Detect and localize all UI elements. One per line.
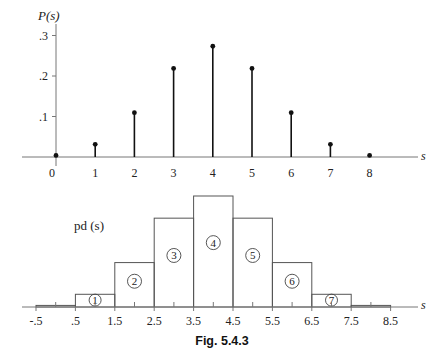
top-x-tick-label: 6 (288, 166, 294, 180)
bottom-x-tick-label: 5.5 (265, 314, 280, 328)
stem-point (250, 66, 255, 71)
top-x-tick-label: 3 (171, 166, 177, 180)
bottom-x-tick-label: 8.5 (383, 314, 398, 328)
bottom-y-axis-label: pd (s) (74, 218, 104, 233)
stem-point (210, 44, 215, 49)
top-x-tick-label: 2 (131, 166, 137, 180)
bar-number-label: 3 (171, 249, 177, 261)
stem-point (328, 142, 333, 147)
top-y-tick-label: .3 (39, 29, 48, 43)
top-x-tick-label: 8 (367, 166, 373, 180)
stem-point (93, 142, 98, 147)
top-x-tick-label: 0 (49, 166, 55, 180)
histogram-plot: pd (s) 1234567 s -.5.51.52.53.54.55.56.5… (22, 196, 426, 328)
bottom-x-tick-label: 6.5 (304, 314, 319, 328)
stem-point (289, 110, 294, 115)
bottom-x-axis-label: s (421, 298, 426, 312)
bottom-x-tick-label: -.5 (30, 314, 43, 328)
top-x-tick-label: 5 (249, 166, 255, 180)
bottom-x-tick-label: .5 (71, 314, 80, 328)
bottom-x-tick-label: 4.5 (226, 314, 241, 328)
bar-number-label: 6 (289, 275, 295, 287)
top-x-axis-label: s (421, 149, 426, 163)
stem-point (54, 153, 59, 158)
bottom-x-tick-label: 1.5 (107, 314, 122, 328)
bottom-y-axis-label-text: pd (s) (74, 218, 104, 233)
top-y-tick-label: .2 (39, 69, 48, 83)
top-x-tick-label: 1 (92, 166, 98, 180)
bar-number-label: 2 (132, 275, 138, 287)
top-y-axis-label: P(s) (37, 8, 60, 23)
bottom-x-tick-label: 7.5 (344, 314, 359, 328)
figure: P(s) s .1.2.3 012345678 pd (s) 1234567 s… (0, 0, 443, 358)
stem-point (367, 153, 372, 158)
stem-point (171, 66, 176, 71)
stem-plot: P(s) s .1.2.3 012345678 (22, 8, 426, 180)
bar-number-label: 4 (211, 237, 217, 249)
histogram-bar (194, 196, 233, 307)
top-x-tick-label: 4 (210, 166, 216, 180)
bottom-x-tick-label: 3.5 (186, 314, 201, 328)
bar-number-label: 5 (250, 249, 256, 261)
top-x-tick-label: 7 (327, 166, 333, 180)
bottom-x-tick-label: 2.5 (147, 314, 162, 328)
figure-caption: Fig. 5.4.3 (195, 334, 249, 348)
top-y-tick-label: .1 (39, 110, 48, 124)
stem-point (132, 110, 137, 115)
